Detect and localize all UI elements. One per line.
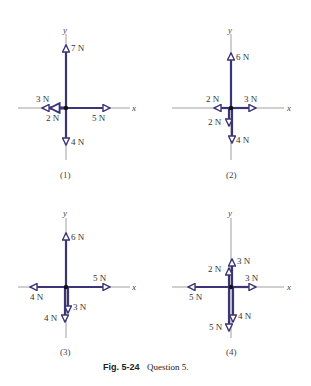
force-label: 2 N xyxy=(208,117,222,127)
x-axis-label: x xyxy=(286,103,291,113)
x-axis-label: x xyxy=(286,282,291,292)
force-label: 5 N xyxy=(209,322,223,332)
force-label: 4 N xyxy=(236,135,250,145)
caption-label: Fig. 5-24 xyxy=(103,362,140,372)
caption-text: Question 5. xyxy=(147,362,189,372)
force-label: 4 N xyxy=(71,137,85,147)
force-label: 5 N xyxy=(92,113,106,123)
origin-point xyxy=(229,285,233,289)
y-axis-label: y xyxy=(62,25,67,35)
force-label: 2 N xyxy=(46,113,60,123)
force-label: 4 N xyxy=(238,311,252,321)
figure-canvas: x y 7 N 3 N 2 N 5 N 4 N (1) x y 6 N 2 N … xyxy=(0,0,311,386)
force-label: 3 N xyxy=(244,94,258,104)
x-axis-label: x xyxy=(131,103,136,113)
origin-point xyxy=(64,106,68,110)
diagram-1: x y 7 N 3 N 2 N 5 N 4 N (1) xyxy=(18,25,136,180)
y-axis-label: y xyxy=(227,25,232,35)
y-axis-label: y xyxy=(62,208,67,218)
force-label: 7 N xyxy=(71,43,85,53)
diagram-2: x y 6 N 2 N 3 N 2 N 4 N (2) xyxy=(172,25,291,180)
force-label: 2 N xyxy=(208,264,222,274)
diagram-4: x y 3 N 2 N 3 N 5 N 4 N 5 N (4) xyxy=(172,208,291,357)
force-label: 6 N xyxy=(236,52,250,62)
force-label: 4 N xyxy=(30,292,44,302)
force-label: 6 N xyxy=(71,232,85,242)
force-label: 5 N xyxy=(93,273,107,283)
diagram-number: (4) xyxy=(226,347,237,357)
force-label: 3 N xyxy=(245,273,259,283)
force-label: 5 N xyxy=(189,292,203,302)
origin-point xyxy=(64,285,68,289)
figure-caption: Fig. 5-24 Question 5. xyxy=(103,362,189,372)
origin-point xyxy=(229,106,233,110)
x-axis-label: x xyxy=(131,282,136,292)
force-label: 2 N xyxy=(206,94,220,104)
diagram-3: x y 6 N 5 N 4 N 3 N 4 N (3) xyxy=(18,208,136,357)
diagram-number: (2) xyxy=(226,170,237,180)
diagram-number: (1) xyxy=(60,170,71,180)
y-axis-label: y xyxy=(227,208,232,218)
force-label: 3 N xyxy=(237,256,251,266)
force-label: 4 N xyxy=(44,313,58,323)
diagram-number: (3) xyxy=(60,347,71,357)
force-label: 3 N xyxy=(36,94,50,104)
force-label: 3 N xyxy=(73,302,87,312)
